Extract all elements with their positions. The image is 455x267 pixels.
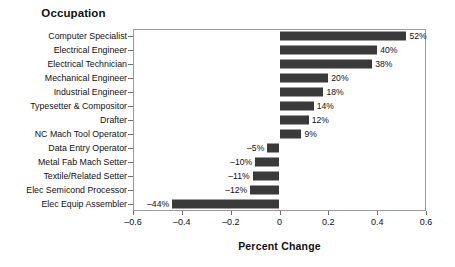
x-axis-tick-label: 0 — [260, 218, 300, 227]
bar-value-label: –5% — [247, 144, 264, 153]
bar-row: –11% — [133, 169, 426, 183]
bar-row: 12% — [133, 113, 426, 127]
bar-value-label: 9% — [304, 130, 316, 139]
bar-value-label: 18% — [326, 88, 343, 97]
bar-value-label: –10% — [230, 158, 252, 167]
bar — [280, 46, 378, 55]
bar — [255, 158, 279, 167]
x-axis-tick — [377, 211, 378, 215]
y-axis-label: Textile/Related Setter — [0, 172, 127, 181]
y-axis-label: Electrical Engineer — [0, 46, 127, 55]
bar-value-label: 14% — [317, 102, 334, 111]
bar — [280, 60, 373, 69]
y-axis-label: Elec Equip Assembler — [0, 200, 127, 209]
bar — [280, 88, 324, 97]
bar-row: –5% — [133, 141, 426, 155]
bars-layer: 52%40%38%20%18%14%12%9%–5%–10%–11%–12%–4… — [133, 29, 426, 211]
bar-value-label: –11% — [228, 172, 249, 181]
bar-value-label: 40% — [380, 46, 397, 55]
bar — [280, 32, 407, 41]
bar — [250, 186, 279, 195]
x-axis-tick — [231, 211, 232, 215]
x-axis-tick-label: –0.6 — [113, 218, 153, 227]
bar — [280, 116, 309, 125]
bar-row: 52% — [133, 29, 426, 43]
bar-row: 9% — [133, 127, 426, 141]
y-axis-labels: Computer SpecialistElectrical EngineerEl… — [0, 29, 127, 211]
y-axis-label: Metal Fab Mach Setter — [0, 158, 127, 167]
y-axis-label: NC Mach Tool Operator — [0, 130, 127, 139]
bar-value-label: 52% — [409, 32, 426, 41]
x-axis-tick — [182, 211, 183, 215]
bar-row: –12% — [133, 183, 426, 197]
bar-value-label: 12% — [312, 116, 329, 125]
bar — [253, 172, 280, 181]
x-axis-tick — [280, 211, 281, 215]
bar — [172, 200, 279, 209]
bar-value-label: –44% — [147, 200, 169, 209]
x-axis-tick-label: 0.4 — [357, 218, 397, 227]
bar — [280, 74, 329, 83]
bar-chart: Occupation Computer SpecialistElectrical… — [0, 0, 455, 267]
bar — [280, 130, 302, 139]
y-axis-label: Data Entry Operator — [0, 144, 127, 153]
x-axis-tick-label: –0.2 — [211, 218, 251, 227]
bar-row: –10% — [133, 155, 426, 169]
y-axis-label: Industrial Engineer — [0, 88, 127, 97]
x-axis-tick — [426, 211, 427, 215]
y-axis-label: Drafter — [0, 116, 127, 125]
bar-value-label: 20% — [331, 74, 348, 83]
x-axis-tick — [328, 211, 329, 215]
y-axis-label: Electrical Technician — [0, 60, 127, 69]
y-axis-label: Computer Specialist — [0, 32, 127, 41]
x-axis-tick — [133, 211, 134, 215]
x-axis-tick-label: 0.6 — [406, 218, 446, 227]
bar-row: –44% — [133, 197, 426, 211]
x-axis-tick-label: 0.2 — [308, 218, 348, 227]
bar — [280, 102, 314, 111]
bar-row: 20% — [133, 71, 426, 85]
x-axis-tick-label: –0.4 — [162, 218, 202, 227]
x-axis-title: Percent Change — [133, 240, 426, 252]
chart-title: Occupation — [0, 7, 147, 19]
bar-row: 14% — [133, 99, 426, 113]
bar-value-label: 38% — [375, 60, 392, 69]
y-axis-label: Elec Semicond Processor — [0, 186, 127, 195]
bar-row: 18% — [133, 85, 426, 99]
bar — [267, 144, 279, 153]
bar-row: 40% — [133, 43, 426, 57]
y-axis-label: Mechanical Engineer — [0, 74, 127, 83]
bar-value-label: –12% — [225, 186, 247, 195]
bar-row: 38% — [133, 57, 426, 71]
y-axis-label: Typesetter & Compositor — [0, 102, 127, 111]
